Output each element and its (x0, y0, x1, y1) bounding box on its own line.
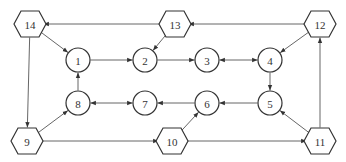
node-label: 11 (315, 136, 326, 148)
node-10: 10 (156, 128, 188, 154)
edge-13-to-2 (153, 34, 166, 50)
edge-14-to-9 (27, 37, 29, 127)
node-13: 13 (159, 11, 191, 37)
node-label: 3 (204, 55, 210, 67)
edge-9-to-8 (38, 110, 68, 132)
node-label: 7 (142, 98, 148, 110)
node-label: 6 (204, 98, 210, 110)
node-label: 8 (75, 98, 81, 110)
node-2: 2 (133, 48, 157, 72)
edge-10-to-6 (181, 112, 198, 131)
node-8: 8 (66, 91, 90, 115)
node-label: 13 (170, 19, 182, 31)
node-14: 14 (14, 11, 46, 37)
node-label: 12 (315, 19, 326, 31)
node-label: 1 (75, 55, 81, 67)
node-4: 4 (258, 48, 282, 72)
node-5: 5 (258, 91, 282, 115)
edge-14-to-1 (41, 32, 68, 52)
network-diagram: 1234567891011121314 (0, 0, 346, 162)
node-3: 3 (195, 48, 219, 72)
node-label: 9 (24, 136, 30, 148)
node-label: 2 (142, 55, 148, 67)
node-label: 10 (167, 136, 179, 148)
node-label: 14 (25, 19, 37, 31)
node-7: 7 (133, 91, 157, 115)
edge-11-to-5 (280, 111, 309, 133)
node-6: 6 (195, 91, 219, 115)
edges-layer (27, 24, 320, 141)
node-label: 4 (267, 55, 273, 67)
nodes-layer: 1234567891011121314 (11, 11, 336, 154)
node-1: 1 (66, 48, 90, 72)
node-12: 12 (304, 11, 336, 37)
node-9: 9 (11, 128, 43, 154)
edge-12-to-4 (280, 32, 309, 53)
node-11: 11 (304, 128, 336, 154)
node-label: 5 (267, 98, 273, 110)
